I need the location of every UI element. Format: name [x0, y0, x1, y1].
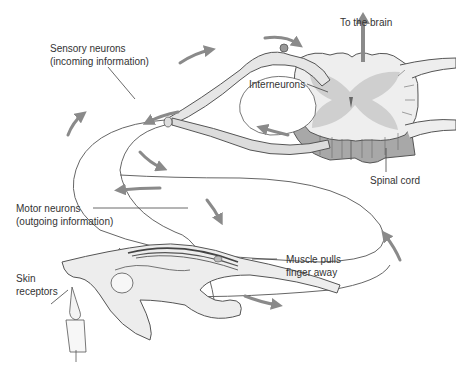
label-skin-line2: receptors: [16, 285, 58, 298]
label-skin-line1: Skin: [16, 272, 58, 285]
label-motor-neurons: Motor neurons (outgoing information): [16, 202, 113, 228]
label-skin-receptors: Skin receptors: [16, 272, 58, 298]
label-muscle-line1: Muscle pulls: [286, 253, 341, 266]
label-muscle: Muscle pulls finger away: [286, 253, 341, 279]
label-sensory-line1: Sensory neurons: [50, 42, 149, 55]
label-motor-line2: (outgoing information): [16, 215, 113, 228]
candle-illustration: [66, 287, 86, 362]
label-to-brain: To the brain: [340, 16, 392, 29]
label-motor-line1: Motor neurons: [16, 202, 113, 215]
label-spinal-cord: Spinal cord: [370, 174, 420, 187]
label-sensory-neurons: Sensory neurons (incoming information): [50, 42, 149, 68]
label-muscle-line2: finger away: [286, 266, 341, 279]
label-sensory-line2: (incoming information): [50, 55, 149, 68]
label-interneurons: Interneurons: [249, 78, 305, 91]
